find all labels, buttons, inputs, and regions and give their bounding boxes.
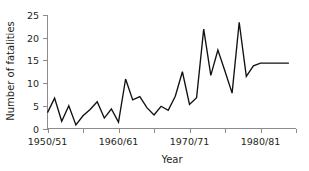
fatalities-line-chart: 0510152025 1950/511960/611970/711980/81 … bbox=[0, 0, 309, 171]
y-tick-label: 25 bbox=[27, 10, 39, 21]
x-tick-label: 1980/81 bbox=[241, 136, 280, 147]
chart-canvas: 0510152025 1950/511960/611970/711980/81 … bbox=[0, 0, 309, 171]
x-axis-ticks bbox=[49, 129, 297, 134]
y-tick-label: 15 bbox=[27, 55, 39, 66]
y-tick-label: 10 bbox=[27, 78, 39, 89]
y-axis-ticks bbox=[43, 16, 48, 130]
y-axis-title: Number of fatalities bbox=[5, 21, 16, 120]
series-line bbox=[48, 22, 289, 125]
y-axis-tick-labels: 0510152025 bbox=[27, 10, 39, 135]
y-tick-label: 20 bbox=[27, 33, 39, 44]
x-axis: 1950/511960/611970/711980/81 bbox=[28, 129, 297, 148]
y-tick-label: 0 bbox=[33, 124, 39, 135]
y-axis: 0510152025 bbox=[27, 10, 48, 135]
y-tick-label: 5 bbox=[33, 101, 39, 112]
data-series-group bbox=[48, 22, 289, 125]
x-tick-label: 1950/51 bbox=[28, 136, 67, 147]
x-tick-label: 1960/61 bbox=[99, 136, 138, 147]
x-axis-title: Year bbox=[160, 154, 183, 165]
x-axis-tick-labels: 1950/511960/611970/711980/81 bbox=[28, 136, 280, 147]
x-tick-label: 1970/71 bbox=[170, 136, 209, 147]
